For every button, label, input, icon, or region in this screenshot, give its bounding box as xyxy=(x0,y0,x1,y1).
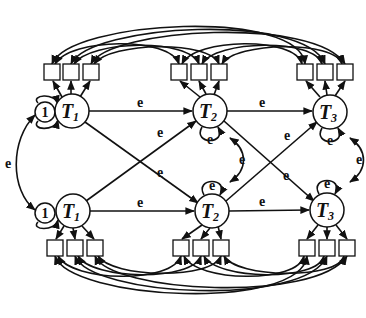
latent-node-t2-top: T2 xyxy=(193,94,227,128)
top-indicators-t2 xyxy=(171,64,227,80)
indicator-box xyxy=(173,240,189,256)
sem-path-diagram: 1 1 T1 T2 T3 T1 T2 T3 e e e e e e e e xyxy=(0,0,366,318)
svg-text:e: e xyxy=(157,125,163,140)
svg-text:1: 1 xyxy=(42,105,49,120)
svg-text:1: 1 xyxy=(42,206,49,221)
indicator-box xyxy=(211,64,227,80)
svg-text:e: e xyxy=(207,132,213,147)
bottom-indicators-t2 xyxy=(173,240,229,256)
latent-node-t2-bottom: T2 xyxy=(195,194,229,228)
indicator-box xyxy=(297,64,313,80)
indicator-box xyxy=(47,240,63,256)
svg-text:e: e xyxy=(209,178,215,193)
bottom-indicators-t1 xyxy=(47,240,103,256)
indicator-box xyxy=(191,64,207,80)
bottom-indicator-covariance-arcs xyxy=(55,256,347,294)
svg-text:e: e xyxy=(259,194,265,209)
indicator-box xyxy=(44,64,60,80)
svg-text:e: e xyxy=(327,133,333,148)
svg-text:e: e xyxy=(356,152,362,167)
indicator-box xyxy=(317,64,333,80)
indicator-box xyxy=(83,64,99,80)
svg-text:e: e xyxy=(5,156,11,171)
indicator-box xyxy=(319,240,335,256)
bottom-indicators-t3 xyxy=(299,240,355,256)
top-indicators-t1 xyxy=(44,64,99,80)
svg-text:e: e xyxy=(137,95,143,110)
indicator-box xyxy=(339,240,355,256)
constant-node-top: 1 xyxy=(35,102,55,122)
indicator-box xyxy=(67,240,83,256)
latent-node-t1-bottom: T1 xyxy=(56,194,90,228)
svg-text:e: e xyxy=(259,95,265,110)
svg-text:e: e xyxy=(324,176,330,191)
top-indicator-covariance-arcs xyxy=(52,26,345,64)
indicator-box xyxy=(63,64,79,80)
latent-node-t3-bottom: T3 xyxy=(310,193,344,227)
svg-text:e: e xyxy=(239,152,245,167)
svg-text:e: e xyxy=(283,168,289,183)
indicator-box xyxy=(213,240,229,256)
indicator-box xyxy=(171,64,187,80)
svg-text:e: e xyxy=(157,165,163,180)
indicator-box xyxy=(337,64,353,80)
svg-text:e: e xyxy=(137,195,143,210)
indicator-box xyxy=(193,240,209,256)
constant-node-bottom: 1 xyxy=(35,203,55,223)
top-indicators-t3 xyxy=(297,64,353,80)
indicator-box xyxy=(87,240,103,256)
latent-node-t1-top: T1 xyxy=(55,94,89,128)
latent-node-t3-top: T3 xyxy=(313,95,347,129)
svg-text:e: e xyxy=(284,128,290,143)
indicator-box xyxy=(299,240,315,256)
